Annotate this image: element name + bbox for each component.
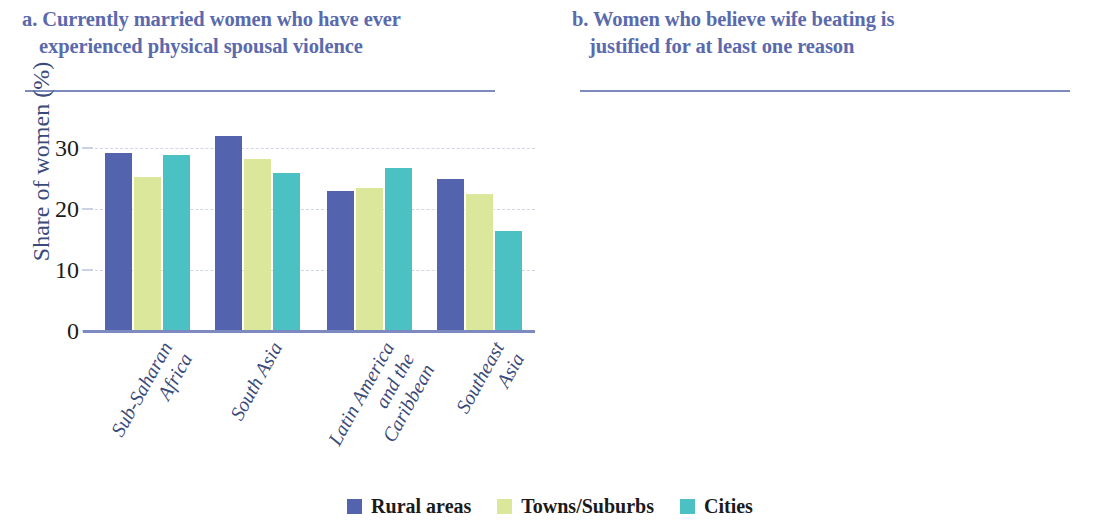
y-tick-label: 0: [67, 318, 79, 345]
bar-group: [437, 130, 524, 331]
legend-item[interactable]: Rural areas: [347, 495, 471, 518]
panel-b-title-line2: justified for at least one reason: [572, 33, 1072, 60]
bar: [385, 168, 412, 331]
x-axis-category-line: South Asia: [185, 338, 288, 498]
x-axis-category-label: South Asia: [185, 338, 288, 498]
panel-a-title-line2: experienced physical spousal violence: [22, 33, 522, 60]
chart-panel-b: b. Women who believe wife beating is jus…: [550, 0, 1100, 492]
legend-swatch-cities: [680, 499, 695, 514]
bar-group: [327, 130, 414, 331]
figure-root: a. Currently married women who have ever…: [0, 0, 1100, 521]
chart-legend: Rural areasTowns/SuburbsCities: [0, 492, 1100, 521]
y-tick-mark: [82, 148, 93, 149]
bar: [134, 177, 161, 331]
bar: [437, 179, 464, 331]
panel-b-title-rule: [580, 90, 1070, 92]
legend-swatch-towns: [497, 499, 512, 514]
y-tick-label: 10: [55, 257, 79, 284]
panels-container: a. Currently married women who have ever…: [0, 0, 1100, 492]
x-axis-category-label: Sub-SaharanAfrica: [75, 338, 198, 509]
bar: [273, 173, 300, 331]
bar-group: [105, 130, 192, 331]
legend-item[interactable]: Cities: [680, 495, 753, 518]
bar-group: [215, 130, 302, 331]
y-tick-mark: [82, 270, 93, 271]
panel-a-plot-area: 0102030: [95, 130, 535, 331]
panel-b-title: b. Women who believe wife beating is jus…: [572, 6, 1072, 60]
panel-a-title-rule: [25, 90, 495, 92]
bar: [105, 153, 132, 331]
panel-a-baseline: [83, 330, 535, 333]
panel-a-bar-groups: [95, 130, 535, 331]
bar: [163, 155, 190, 331]
y-tick-label: 30: [55, 135, 79, 162]
bar: [215, 136, 242, 331]
y-tick-label: 20: [55, 196, 79, 223]
bar: [244, 159, 271, 331]
panel-a-x-axis-labels: Sub-SaharanAfricaSouth AsiaLatin America…: [95, 338, 535, 488]
panel-a-title-line1: a. Currently married women who have ever: [22, 8, 401, 30]
panel-a-y-axis-label: Share of women (%): [28, 47, 55, 277]
legend-swatch-rural: [347, 499, 362, 514]
y-tick-mark: [82, 209, 93, 210]
bar: [356, 188, 383, 331]
legend-label: Rural areas: [371, 495, 471, 518]
chart-panel-a: a. Currently married women who have ever…: [0, 0, 550, 492]
bar: [466, 194, 493, 331]
legend-label: Towns/Suburbs: [521, 495, 654, 518]
bar: [495, 231, 522, 332]
legend-item[interactable]: Towns/Suburbs: [497, 495, 654, 518]
bar: [327, 191, 354, 331]
legend-label: Cities: [704, 495, 753, 518]
panel-a-title: a. Currently married women who have ever…: [22, 6, 522, 60]
panel-b-title-line1: b. Women who believe wife beating is: [572, 8, 894, 30]
